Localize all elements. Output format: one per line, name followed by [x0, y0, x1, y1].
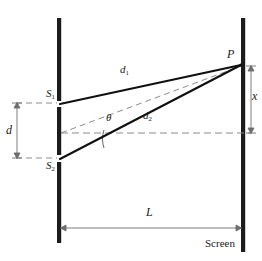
label-point-p: P [227, 48, 234, 60]
dimension-l-arrow-left [61, 225, 67, 231]
label-path-d1: d1 [120, 64, 129, 76]
observation-screen-bar [241, 18, 245, 252]
label-angle-theta: θ [106, 112, 111, 123]
point-p-marker [240, 64, 243, 67]
barrier-segment-middle [57, 107, 61, 155]
dimension-l-arrow-right [236, 225, 242, 231]
label-screen-offset: x [252, 90, 257, 102]
dimension-d [12, 103, 22, 159]
dashed-midpoint-to-p [61, 66, 241, 133]
screen-bar [241, 18, 245, 252]
ray-d1 [60, 65, 241, 104]
dimension-l [61, 225, 242, 231]
theta-arc [103, 130, 104, 148]
label-screen: Screen [205, 238, 235, 249]
label-slit-s1: S1 [46, 88, 55, 100]
label-slit-s2: S2 [46, 160, 55, 172]
theta-angle-arc [103, 130, 104, 148]
label-slit-separation: d [6, 124, 12, 136]
construction-lines [16, 66, 252, 158]
slit-barrier [57, 18, 61, 243]
double-slit-diagram: S1 S2 d d1 d2 θ P x L Screen [0, 0, 262, 261]
label-screen-distance: L [146, 206, 153, 218]
barrier-segment-upper [57, 18, 61, 101]
label-path-d2: d2 [143, 110, 152, 122]
diagram-canvas [0, 0, 262, 261]
barrier-segment-lower [57, 162, 61, 243]
